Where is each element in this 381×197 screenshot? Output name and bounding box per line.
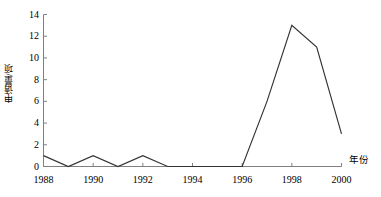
- line-chart: 申请量/项 02468101214 1988199019921994199619…: [0, 0, 381, 197]
- data-series-line: [44, 25, 342, 166]
- plot-area: [0, 0, 381, 197]
